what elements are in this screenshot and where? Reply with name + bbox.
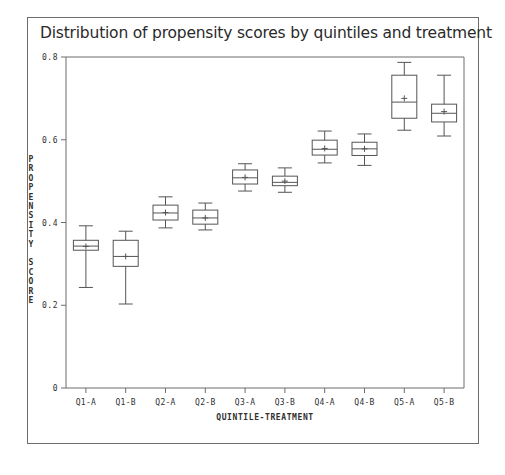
x-tick-label: Q3-B xyxy=(275,398,295,407)
y-tick-label: 0.2 xyxy=(42,301,58,310)
x-tick-label: Q1-B xyxy=(115,398,135,407)
x-tick-label: Q5-A xyxy=(394,398,414,407)
boxplot-q4-a xyxy=(312,131,337,163)
boxplot-q4-b xyxy=(352,134,377,165)
boxplot-q2-a xyxy=(153,197,178,228)
boxplot-q2-b xyxy=(193,203,218,230)
y-tick-label: 0.6 xyxy=(42,136,58,145)
boxplot-q3-b xyxy=(272,168,297,192)
boxplot-canvas: 00.20.40.60.8Q1-AQ1-BQ2-AQ2-BQ3-AQ3-BQ4-… xyxy=(0,0,505,475)
y-tick-label: 0.4 xyxy=(42,219,58,228)
y-tick-label: 0 xyxy=(53,384,58,393)
boxplot-q5-a xyxy=(392,62,417,130)
x-tick-label: Q5-B xyxy=(434,398,454,407)
boxplot-q5-b xyxy=(432,75,457,136)
boxplot-q1-b xyxy=(113,231,138,304)
x-tick-label: Q2-B xyxy=(195,398,215,407)
box-iqr xyxy=(113,240,138,266)
axes-layer xyxy=(61,57,464,393)
chart-page: Distribution of propensity scores by qui… xyxy=(0,0,505,475)
x-tick-label: Q4-B xyxy=(354,398,374,407)
x-tick-label: Q3-A xyxy=(235,398,255,407)
x-tick-label: Q1-A xyxy=(76,398,96,407)
boxplot-q1-a xyxy=(73,226,98,288)
labels-layer: 00.20.40.60.8Q1-AQ1-BQ2-AQ2-BQ3-AQ3-BQ4-… xyxy=(42,53,454,422)
x-axis-title: QUINTILE-TREATMENT xyxy=(216,413,314,422)
boxplot-q3-a xyxy=(233,164,258,191)
x-tick-label: Q2-A xyxy=(155,398,175,407)
x-tick-label: Q4-A xyxy=(314,398,334,407)
boxes-layer xyxy=(73,62,456,304)
y-tick-label: 0.8 xyxy=(42,53,58,62)
